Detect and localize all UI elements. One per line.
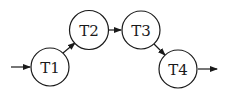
node-t1: T1: [31, 48, 69, 86]
diagram-canvas: T1 T2 T3 T4: [0, 0, 228, 92]
node-t4-label: T4: [168, 61, 188, 79]
node-t4: T4: [159, 50, 197, 88]
node-t1-label: T1: [40, 59, 60, 77]
node-t3: T3: [122, 11, 160, 49]
node-t2: T2: [70, 11, 109, 50]
node-t2-label: T2: [79, 22, 99, 40]
node-t3-label: T3: [131, 22, 151, 40]
edge-t3-t4: [154, 44, 165, 55]
edge-t1-t2: [63, 43, 75, 53]
diagram: T1 T2 T3 T4: [0, 0, 228, 92]
